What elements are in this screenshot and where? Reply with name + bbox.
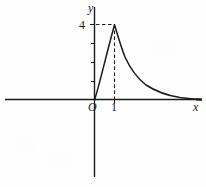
x-tick-label-1: 1 [111,101,117,113]
y-tick-label-4: 4 [79,19,85,31]
function-curve [95,25,201,100]
x-axis-label: x [193,101,198,113]
function-graph-figure: y x O 4 1 [0,0,206,187]
origin-label: O [88,101,97,113]
y-axis-label: y [88,2,93,14]
graph-canvas [0,0,206,187]
